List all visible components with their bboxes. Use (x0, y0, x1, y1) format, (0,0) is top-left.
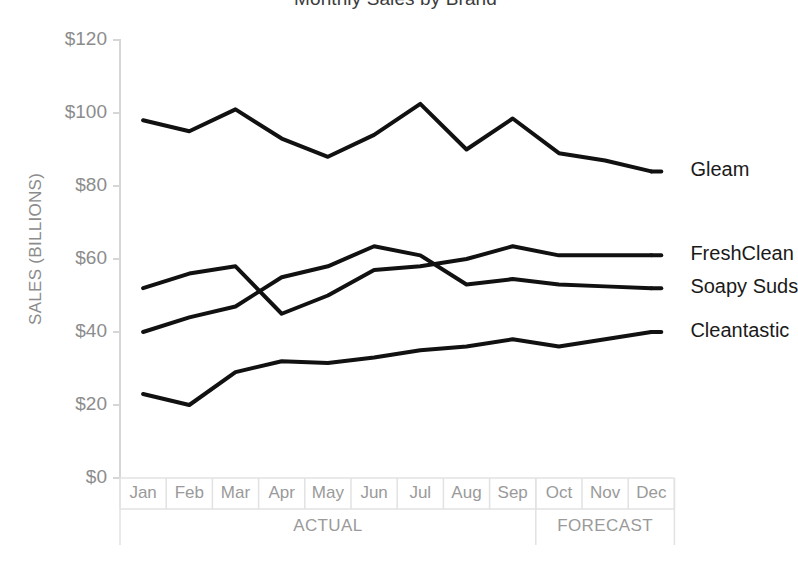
x-tick-label-nov: Nov (582, 483, 628, 503)
y-tick-label: $40 (75, 320, 107, 342)
x-tick-label-oct: Oct (536, 483, 582, 503)
series-label-freshclean: FreshClean (690, 242, 793, 265)
x-group-label-actual: ACTUAL (120, 516, 536, 536)
series-label-gleam: Gleam (690, 158, 749, 181)
y-tick-label: $20 (75, 393, 107, 415)
x-tick-label-mar: Mar (212, 483, 258, 503)
x-tick-label-jul: Jul (397, 483, 443, 503)
series-line-soapy-suds (143, 246, 651, 332)
y-tick-label: $80 (75, 174, 107, 196)
series-label-cleantastic: Cleantastic (690, 319, 789, 342)
series-line-freshclean (143, 246, 651, 314)
y-tick-label: $0 (86, 466, 107, 488)
x-group-label-forecast: FORECAST (536, 516, 675, 536)
x-tick-label-jan: Jan (120, 483, 166, 503)
x-tick-label-apr: Apr (259, 483, 305, 503)
y-tick-label: $60 (75, 247, 107, 269)
x-tick-label-may: May (305, 483, 351, 503)
x-tick-label-aug: Aug (443, 483, 489, 503)
x-tick-label-jun: Jun (351, 483, 397, 503)
x-tick-label-sep: Sep (490, 483, 536, 503)
x-tick-label-feb: Feb (166, 483, 212, 503)
series-line-gleam (143, 104, 651, 172)
series-label-soapy-suds: Soapy Suds (690, 275, 798, 298)
series-line-cleantastic (143, 332, 651, 405)
x-tick-label-dec: Dec (628, 483, 674, 503)
y-tick-label: $120 (65, 28, 107, 50)
y-tick-label: $100 (65, 101, 107, 123)
